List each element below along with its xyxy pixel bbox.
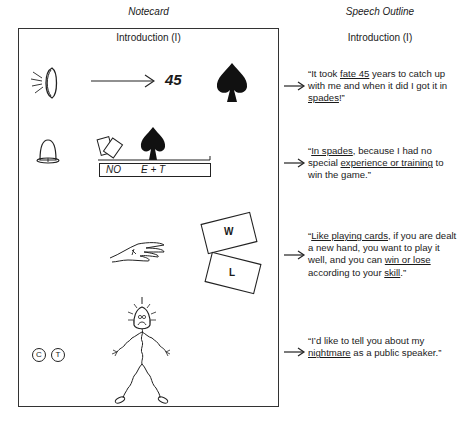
win-lose-cards [200, 212, 262, 298]
spade-icon [215, 62, 249, 104]
outline-quote: “Like playing cards, if you are dealt a … [308, 230, 458, 279]
arrow-right-icon [283, 250, 307, 260]
stick-figure-icon [108, 296, 178, 408]
no-label: NO [106, 164, 121, 175]
circle-t-icon: T [51, 348, 65, 362]
quote-text: “It took [308, 68, 340, 79]
quote-text: as a public speaker.” [351, 347, 442, 358]
lose-card-label: L [229, 267, 235, 278]
quote-text: .” [400, 267, 406, 278]
notecard-header: Notecard [18, 6, 279, 17]
outline-quote: “In spades, because I had no special exp… [308, 145, 458, 182]
arrow-right-icon [283, 81, 307, 91]
bell-icon [35, 138, 61, 166]
quote-text: !” [339, 92, 345, 103]
eye-icon [30, 66, 60, 100]
arrow-right-icon [283, 158, 307, 168]
arrow-right-icon [90, 74, 156, 88]
table-line [98, 156, 212, 162]
outline-quote: “I’d like to tell you about my nightmare… [308, 335, 458, 359]
circle-c-icon: C [32, 348, 46, 362]
key-phrase: In spades [311, 145, 353, 156]
key-phrase: experience or training [341, 157, 433, 168]
arrow-right-icon [283, 347, 307, 357]
outline-quote: “It took fate 45 years to catch up with … [308, 68, 458, 105]
key-phrase: nightmare [308, 347, 351, 358]
experience-training-label: E + T [141, 164, 165, 175]
win-card-label: W [224, 226, 233, 237]
quote-text: “I’d like to tell you about my [308, 335, 424, 346]
key-phrase: Like playing cards [311, 230, 388, 241]
speech-outline-header: Speech Outline [300, 6, 460, 17]
quote-text: according to your [308, 267, 384, 278]
key-phrase: fate 45 [340, 68, 369, 79]
notecard-title: Introduction (I) [18, 32, 279, 43]
key-phrase: win or lose [385, 254, 431, 265]
age-number: 45 [165, 71, 182, 88]
key-phrase: skill [384, 267, 400, 278]
hand-icon [108, 240, 168, 266]
key-phrase: spades [308, 92, 339, 103]
outline-title: Introduction (I) [300, 32, 460, 43]
